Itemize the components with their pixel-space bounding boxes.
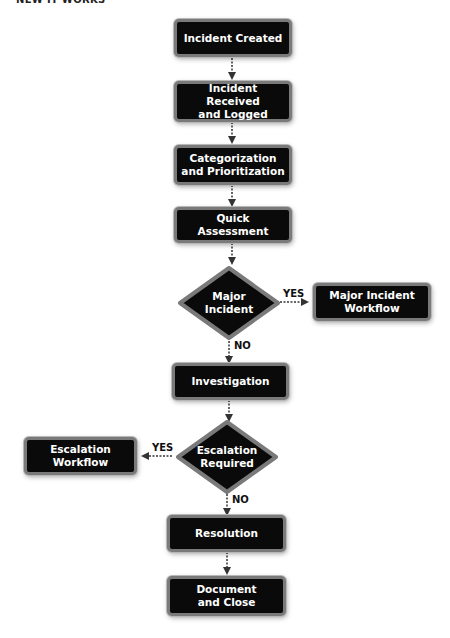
- decision-label-line1: Major: [212, 290, 246, 303]
- node-label-line2: Workflow: [344, 302, 399, 315]
- node-major-incident-workflow: Major Incident Workflow: [313, 283, 431, 321]
- node-incident-received-logged: Incident Received and Logged: [174, 81, 292, 122]
- node-label-line2: and Prioritization: [181, 165, 284, 178]
- decision-major-incident: Major Incident: [177, 265, 281, 341]
- node-label-line2: and Logged: [198, 108, 267, 121]
- node-quick-assessment: Quick Assessment: [174, 207, 292, 243]
- node-label: Incident Created: [184, 32, 283, 45]
- node-label-line1: Incident Received: [181, 82, 285, 108]
- decision-label-line1: Escalation: [197, 444, 258, 457]
- node-investigation: Investigation: [172, 363, 289, 400]
- node-label-line1: Document: [196, 583, 256, 596]
- decision-label-line2: Incident: [205, 303, 253, 316]
- edge-label-major-no: NO: [234, 340, 251, 351]
- node-incident-created: Incident Created: [174, 19, 292, 57]
- decision-label-line2: Required: [200, 457, 254, 470]
- node-label-line2: and Close: [198, 596, 256, 609]
- decision-escalation-required: Escalation Required: [175, 419, 279, 495]
- node-label-line1: Categorization: [190, 152, 277, 165]
- node-label-line1: Escalation: [50, 443, 111, 456]
- edge-label-major-yes: YES: [283, 288, 304, 299]
- node-resolution: Resolution: [167, 515, 286, 552]
- node-escalation-workflow: Escalation Workflow: [24, 437, 137, 475]
- node-label: Quick Assessment: [181, 212, 285, 238]
- edge-label-escalation-yes: YES: [152, 442, 173, 453]
- node-label: Investigation: [191, 375, 269, 388]
- edge-label-escalation-no: NO: [232, 494, 249, 505]
- node-label-line2: Workflow: [53, 456, 108, 469]
- node-categorization-prioritization: Categorization and Prioritization: [174, 145, 292, 185]
- node-label: Resolution: [195, 527, 258, 540]
- node-document-close: Document and Close: [167, 576, 286, 616]
- node-label-line1: Major Incident: [329, 289, 415, 302]
